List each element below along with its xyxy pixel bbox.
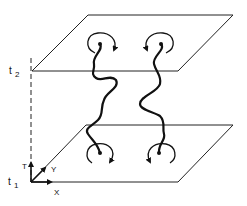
- axis-label-y: Y: [51, 165, 57, 174]
- plane-t1: [31, 125, 233, 182]
- spacetime-diagram: T X Y t 2 t 1: [0, 0, 247, 206]
- time-label-t1-sub: 1: [14, 181, 19, 190]
- vortex-dot-bottom-right: [157, 151, 161, 155]
- time-label-t2: t 2: [9, 65, 20, 79]
- time-label-t1-main: t: [8, 176, 11, 187]
- axis-label-x: X: [54, 188, 60, 197]
- vortex-dot-top-right: [159, 42, 163, 46]
- plane-t2: [32, 15, 233, 71]
- vortex-dot-bottom-left: [98, 151, 102, 155]
- worldline-left: [87, 44, 117, 153]
- time-label-t1: t 1: [8, 176, 19, 190]
- vortex-dot-top-left: [98, 42, 102, 46]
- time-label-t2-sub: 2: [15, 70, 20, 79]
- worldline-right: [140, 44, 164, 153]
- axis-y: [31, 168, 45, 182]
- rotation-arrow-bottom-right: [148, 144, 175, 163]
- time-label-t2-main: t: [9, 65, 12, 76]
- axis-label-t: T: [22, 162, 27, 171]
